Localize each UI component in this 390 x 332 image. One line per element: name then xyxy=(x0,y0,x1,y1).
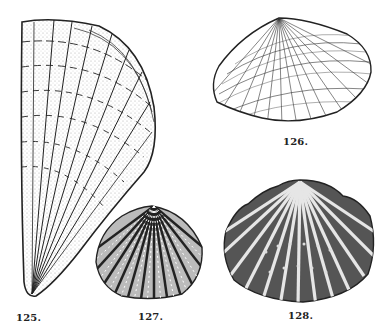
illustration-plate: 125. 1 xyxy=(0,0,390,332)
figure-125-label: 125. xyxy=(16,312,41,323)
figure-127-label: 127. xyxy=(138,311,163,322)
figure-126-shell xyxy=(207,14,377,129)
figure-128-shell xyxy=(218,176,380,304)
figure-128-label: 128. xyxy=(288,310,313,321)
figure-127-shell xyxy=(92,202,208,302)
figure-126-label: 126. xyxy=(283,136,308,147)
